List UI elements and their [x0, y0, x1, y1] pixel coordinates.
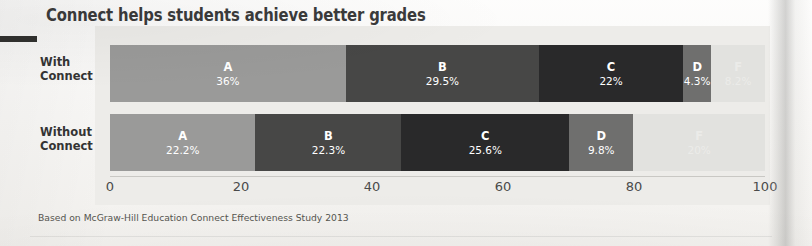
segment-grade-label: B	[438, 60, 447, 74]
segment-grade-label: B	[324, 129, 333, 143]
x-axis-tick-40: 40	[364, 179, 381, 194]
bar-segment-d: D9.8%	[569, 114, 633, 171]
row-label-line2: Connect	[40, 140, 106, 154]
bar-segment-d: D4.3%	[683, 45, 711, 102]
segment-grade-label: C	[607, 60, 615, 74]
x-axis-tick-60: 60	[495, 179, 512, 194]
segment-grade-label: C	[481, 129, 489, 143]
bar-segment-c: C22%	[539, 45, 683, 102]
x-axis-tick-0: 0	[106, 179, 114, 194]
bar-segment-b: B22.3%	[255, 114, 401, 171]
segment-value-label: 22.2%	[166, 143, 199, 157]
page-edge-shadow	[768, 0, 812, 246]
segment-grade-label: F	[695, 129, 703, 143]
segment-value-label: 22%	[599, 74, 622, 88]
stacked-bar-without-connect: A22.2%B22.3%C25.6%D9.8%F20%	[110, 114, 765, 171]
segment-value-label: 9.8%	[588, 143, 615, 157]
segment-grade-label: D	[596, 129, 606, 143]
row-label-line1: Without	[40, 126, 106, 140]
row-label-with-connect: With Connect	[40, 56, 106, 83]
segment-grade-label: D	[692, 60, 702, 74]
segment-value-label: 36%	[216, 74, 239, 88]
segment-grade-label: A	[178, 129, 187, 143]
segment-value-label: 25.6%	[469, 143, 502, 157]
segment-value-label: 29.5%	[426, 74, 459, 88]
bar-segment-b: B29.5%	[346, 45, 539, 102]
bar-segment-f: F8.2%	[711, 45, 765, 102]
bar-segment-c: C25.6%	[401, 114, 569, 171]
segment-value-label: 22.3%	[312, 143, 345, 157]
segment-value-label: 4.3%	[684, 74, 711, 88]
source-footnote: Based on McGraw-Hill Education Connect E…	[38, 212, 349, 223]
row-label-line2: Connect	[40, 70, 106, 84]
bar-segment-a: A36%	[110, 45, 346, 102]
segment-value-label: 20%	[687, 143, 710, 157]
scanned-chart-page: Connect helps students achieve better gr…	[0, 0, 812, 246]
page-title: Connect helps students achieve better gr…	[46, 5, 426, 25]
stacked-bar-with-connect: A36%B29.5%C22%D4.3%F8.2%	[110, 45, 765, 102]
row-label-line1: With	[40, 56, 106, 70]
bar-segment-a: A22.2%	[110, 114, 255, 171]
segment-value-label: 8.2%	[725, 74, 752, 88]
x-axis-tick-labels: 020406080100	[110, 179, 765, 199]
segment-grade-label: F	[734, 60, 742, 74]
row-label-without-connect: Without Connect	[40, 126, 106, 153]
bar-segment-f: F20%	[633, 114, 765, 171]
footnote-divider	[30, 236, 772, 237]
x-axis-tick-100: 100	[753, 179, 778, 194]
segment-grade-label: A	[223, 60, 232, 74]
x-axis-line	[110, 176, 765, 177]
left-accent-rule	[0, 36, 37, 42]
x-axis-tick-80: 80	[626, 179, 643, 194]
x-axis-tick-20: 20	[233, 179, 250, 194]
